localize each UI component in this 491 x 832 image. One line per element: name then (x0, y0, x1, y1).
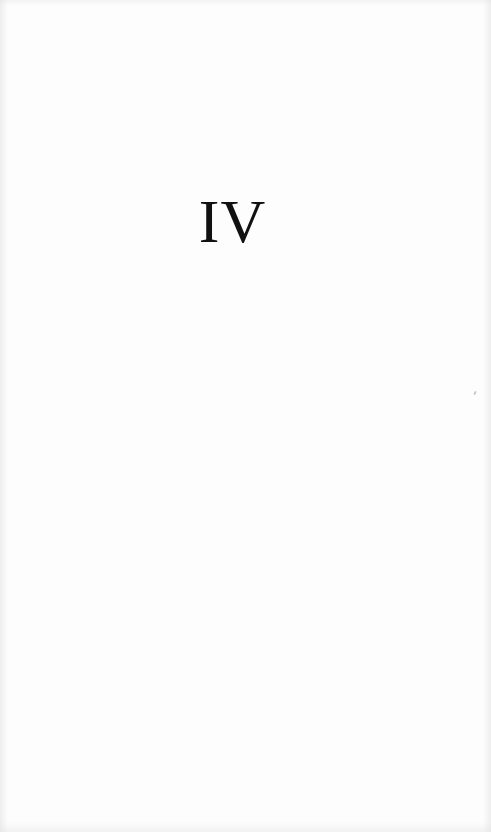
book-page: IV (0, 0, 491, 832)
chapter-numeral-heading: IV (0, 190, 465, 252)
scan-speck (473, 391, 477, 395)
